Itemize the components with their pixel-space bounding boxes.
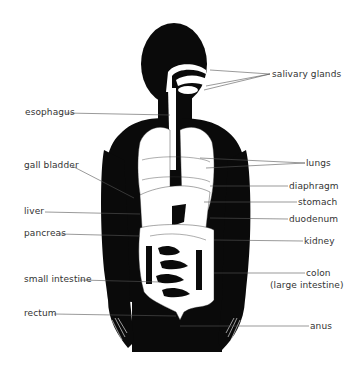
label-salivary-glands: salivary glands <box>272 69 341 79</box>
label-small-intestine: small intestine <box>24 274 92 284</box>
label-colon-subtitle: (large intestine) <box>270 280 344 290</box>
label-colon: colon <box>306 268 331 278</box>
label-stomach: stomach <box>298 197 337 207</box>
digestive-system-diagram: esophagus gall bladder liver pancreas sm… <box>0 0 347 378</box>
label-anus: anus <box>310 321 332 331</box>
label-esophagus: esophagus <box>25 107 75 117</box>
label-kidney: kidney <box>304 236 335 246</box>
label-gall-bladder: gall bladder <box>24 160 79 170</box>
label-pancreas: pancreas <box>24 228 66 238</box>
label-duodenum: duodenum <box>289 214 338 224</box>
label-liver: liver <box>24 206 44 216</box>
label-diaphragm: diaphragm <box>289 181 339 191</box>
label-lungs: lungs <box>306 158 331 168</box>
label-rectum: rectum <box>24 308 57 318</box>
